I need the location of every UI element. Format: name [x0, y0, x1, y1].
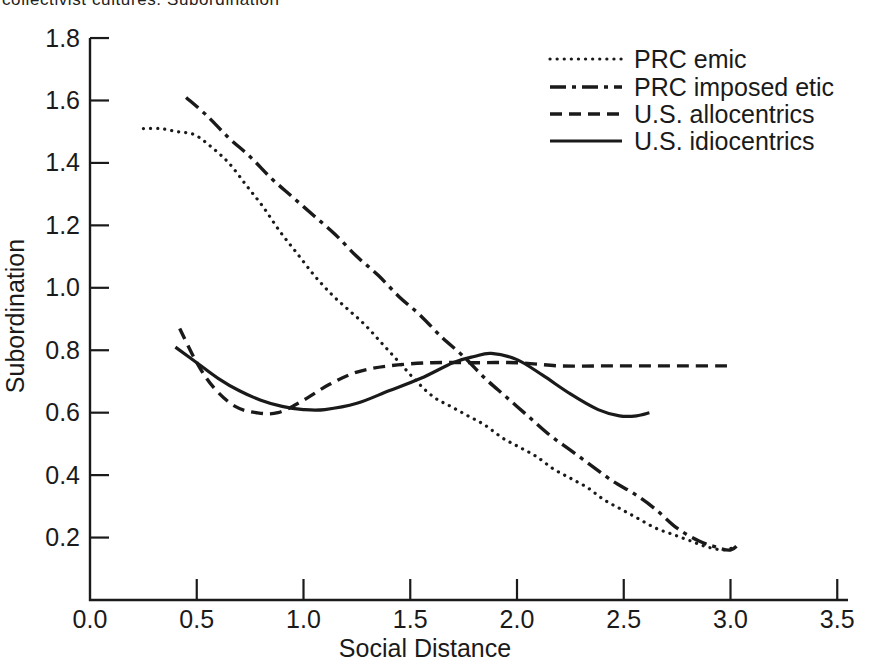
clipped-caption-line: collectivist cultures: Subordination: [2, 0, 422, 9]
legend-label: PRC emic: [634, 45, 747, 73]
y-tick-label: 0.2: [45, 523, 80, 551]
x-tick-label: 1.0: [286, 605, 321, 633]
clipped-caption-text: collectivist cultures: Subordination: [2, 0, 422, 9]
y-tick-label: 0.6: [45, 398, 80, 426]
x-axis-title: Social Distance: [339, 634, 511, 662]
y-tick-label: 0.4: [45, 461, 80, 489]
y-tick-label: 0.8: [45, 336, 80, 364]
legend-label: U.S. idiocentrics: [634, 127, 815, 155]
x-tick-label: 3.0: [713, 605, 748, 633]
y-tick-label: 1.0: [45, 273, 80, 301]
legend-label: U.S. allocentrics: [634, 100, 815, 128]
y-tick-label: 1.8: [45, 24, 80, 52]
y-tick-label: 1.4: [45, 148, 80, 176]
subordination-line-chart: 0.20.40.60.81.01.21.41.61.80.00.51.01.52…: [0, 0, 870, 667]
x-tick-label: 0.0: [73, 605, 108, 633]
scanned-figure-page: collectivist cultures: Subordination 0.2…: [0, 0, 870, 667]
y-tick-label: 1.2: [45, 211, 80, 239]
legend-label: PRC imposed etic: [634, 73, 834, 101]
y-axis-title: Subordination: [1, 239, 29, 393]
x-tick-label: 1.5: [393, 605, 428, 633]
x-tick-label: 3.5: [820, 605, 855, 633]
x-tick-label: 2.5: [606, 605, 641, 633]
x-tick-label: 0.5: [179, 605, 214, 633]
series-line-dotted: [143, 128, 734, 550]
series-line-solid: [175, 347, 649, 416]
series-line-dashdot: [186, 97, 739, 550]
x-tick-label: 2.0: [500, 605, 535, 633]
y-tick-label: 1.6: [45, 86, 80, 114]
